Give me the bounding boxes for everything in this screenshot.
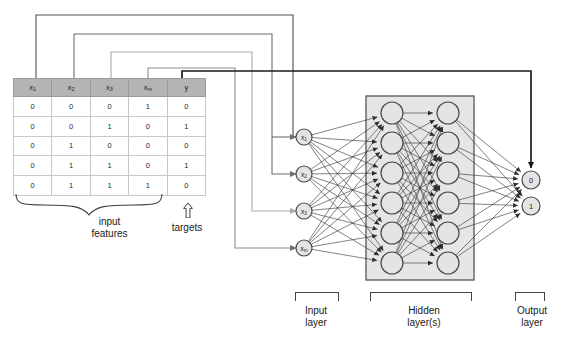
hidden-node-layer1 [381,162,403,184]
svg-text:1: 1 [529,202,533,211]
input-layer-bracket [295,292,339,301]
hidden-node-layer2 [437,102,459,124]
input-layer-line2: layer [288,317,344,329]
hidden-node-layer1 [381,252,403,274]
input-node-m: xm [296,240,312,256]
diagram-canvas: x1 x2 x3 xm y 0 0 0 1 0 0 0 1 [0,0,562,353]
hidden-node-layer1 [381,132,403,154]
input-node-3: x3 [296,203,312,219]
input-node-2: x2 [296,166,312,182]
neural-network-graph: x1x2x3xm01 [0,0,562,353]
hidden-layer-bracket [370,292,472,301]
input-layer-line1: Input [288,305,344,317]
output-layer-line2: layer [506,317,558,329]
hidden-layer-line2: layer(s) [369,317,479,329]
hidden-layer-caption: Hidden layer(s) [369,305,479,328]
hidden-node-layer1 [381,222,403,244]
hidden-node-layer2 [437,252,459,274]
hidden-node-layer2 [437,162,459,184]
svg-text:0: 0 [529,176,533,185]
hidden-layer-line1: Hidden [369,305,479,317]
hidden-node-layer1 [381,192,403,214]
input-node-1: x1 [296,129,312,145]
output-node-0: 0 [522,171,540,189]
output-layer-line1: Output [506,305,558,317]
output-layer-bracket [515,292,545,301]
hidden-node-layer1 [381,102,403,124]
input-layer-caption: Input layer [288,305,344,328]
hidden-node-layer2 [437,222,459,244]
output-node-1: 1 [522,197,540,215]
output-layer-caption: Output layer [506,305,558,328]
hidden-node-layer2 [437,132,459,154]
hidden-node-layer2 [437,192,459,214]
